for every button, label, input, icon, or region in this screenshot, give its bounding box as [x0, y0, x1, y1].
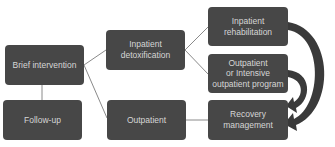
edge-brief-to-detox [84, 50, 106, 65]
node-label: Inpatient [232, 16, 265, 27]
node-outpatient-or-iop: Outpatient or Intensive outpatient progr… [208, 54, 288, 93]
node-label: Recovery [230, 109, 266, 120]
arrow-iop-to-recovery [286, 70, 307, 113]
node-inpatient-detoxification: Inpatient detoxification [106, 30, 185, 70]
node-label: Outpatient [127, 115, 166, 126]
node-follow-up: Follow-up [3, 100, 82, 140]
node-label: Outpatient [228, 58, 267, 69]
node-recovery-management: Recovery management [208, 100, 288, 140]
node-label: management [223, 120, 273, 131]
node-label: detoxification [121, 50, 171, 61]
edge-detox-to-iop [185, 50, 208, 74]
node-label: Brief intervention [13, 60, 77, 71]
node-brief-intervention: Brief intervention [5, 45, 84, 85]
node-label: Inpatient [129, 39, 162, 50]
edge-brief-to-outpatient [84, 65, 107, 118]
node-outpatient: Outpatient [107, 100, 186, 140]
node-inpatient-rehabilitation: Inpatient rehabilitation [208, 7, 288, 46]
node-label: rehabilitation [224, 27, 272, 38]
node-label: or Intensive [226, 68, 270, 79]
edge-detox-to-rehab [185, 27, 208, 50]
node-label: Follow-up [24, 115, 61, 126]
node-label: outpatient program [212, 79, 283, 90]
